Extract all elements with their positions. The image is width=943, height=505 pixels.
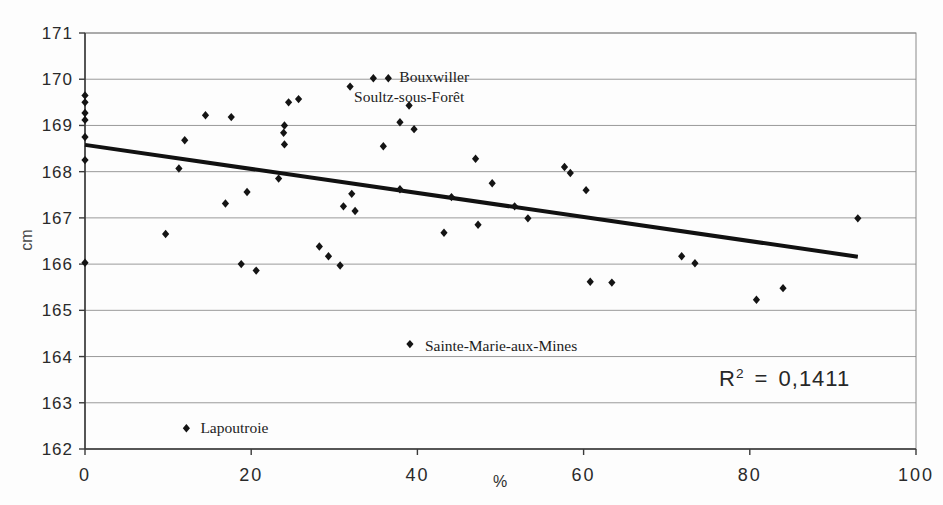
y-axis-title: cm — [18, 229, 36, 250]
data-point-marker — [222, 199, 229, 207]
data-point-marker — [325, 252, 332, 260]
annotation-sainte-marie-aux-mines: Sainte-Marie-aux-Mines — [425, 337, 577, 354]
data-point-marker — [81, 259, 88, 267]
data-point-marker — [253, 266, 260, 274]
x-tick-label: 20 — [239, 465, 263, 485]
data-point-marker — [228, 113, 235, 121]
data-point-marker — [854, 214, 861, 222]
y-tick-label: 170 — [42, 70, 73, 89]
data-point-marker — [561, 163, 568, 171]
data-point-marker — [489, 179, 496, 187]
x-tick-label: 40 — [405, 465, 429, 485]
data-point-marker — [346, 82, 353, 90]
data-point-marker — [380, 142, 387, 150]
data-point-marker — [238, 260, 245, 268]
data-point-marker — [406, 340, 413, 348]
y-tick-label: 168 — [42, 163, 73, 182]
data-point-marker — [81, 156, 88, 164]
data-point-marker — [243, 188, 250, 196]
trendline — [85, 145, 858, 257]
y-tick-label: 171 — [42, 24, 73, 43]
data-point-marker — [275, 174, 282, 182]
data-point-marker — [582, 186, 589, 194]
data-point-marker — [81, 116, 88, 124]
data-point-marker — [472, 155, 479, 163]
trendline-segment — [85, 145, 858, 257]
data-point-marker — [753, 296, 760, 304]
data-point-marker — [285, 98, 292, 106]
annotation-bouxwiller: Bouxwiller — [399, 68, 470, 85]
x-tick-label: 60 — [572, 465, 596, 485]
data-point-marker — [181, 136, 188, 144]
annotation-soultz-sous-for-t: Soultz-sous-Forêt — [354, 88, 465, 105]
data-point-marker — [202, 111, 209, 119]
x-tick-label: 80 — [738, 465, 762, 485]
y-tick-label: 169 — [42, 116, 73, 135]
data-point-marker — [162, 230, 169, 238]
x-tick-label: 100 — [898, 465, 934, 485]
annotation-lapoutroie: Lapoutroie — [200, 419, 268, 436]
data-point-marker — [474, 221, 481, 229]
data-point-marker — [348, 190, 355, 198]
data-point-marker — [440, 228, 447, 236]
data-point-marker — [410, 125, 417, 133]
scatter-chart: 162163164165166167168169170171 020406080… — [0, 0, 943, 505]
y-tick-label: 162 — [42, 440, 73, 459]
data-point-marker — [587, 277, 594, 285]
data-point-marker — [281, 140, 288, 148]
chart-svg: 162163164165166167168169170171 020406080… — [0, 0, 943, 505]
data-point-marker — [351, 207, 358, 215]
y-tick-label: 164 — [42, 348, 73, 367]
data-point-marker — [295, 95, 302, 103]
x-axis-title: % — [493, 473, 507, 491]
annotation-labels: BouxwillerSoultz-sous-ForêtSainte-Marie-… — [200, 68, 577, 436]
data-point-marker — [81, 133, 88, 141]
data-point-marker — [81, 98, 88, 106]
data-point-marker — [280, 129, 287, 137]
y-tick-label: 167 — [42, 209, 73, 228]
r-squared-label: R2 = 0,1411 — [719, 366, 850, 392]
data-point-marker — [281, 121, 288, 129]
data-point-marker — [385, 74, 392, 82]
y-tick-labels: 162163164165166167168169170171 — [42, 24, 73, 459]
data-point-marker — [779, 284, 786, 292]
x-tick-marks — [85, 449, 916, 455]
y-tick-label: 166 — [42, 255, 73, 274]
r-squared-value: = 0,1411 — [744, 366, 850, 391]
data-point-marker — [608, 278, 615, 286]
y-tick-label: 165 — [42, 301, 73, 320]
x-tick-label: 0 — [79, 465, 91, 485]
r-squared-base: R — [719, 366, 736, 391]
data-point-marker — [567, 169, 574, 177]
data-point-marker — [337, 261, 344, 269]
y-tick-label: 163 — [42, 394, 73, 413]
data-point-marker — [370, 74, 377, 82]
data-point-marker — [316, 242, 323, 250]
data-point-marker — [678, 252, 685, 260]
data-point-marker — [524, 214, 531, 222]
data-point-marker — [340, 202, 347, 210]
data-point-marker — [183, 424, 190, 432]
data-point-marker — [691, 259, 698, 267]
